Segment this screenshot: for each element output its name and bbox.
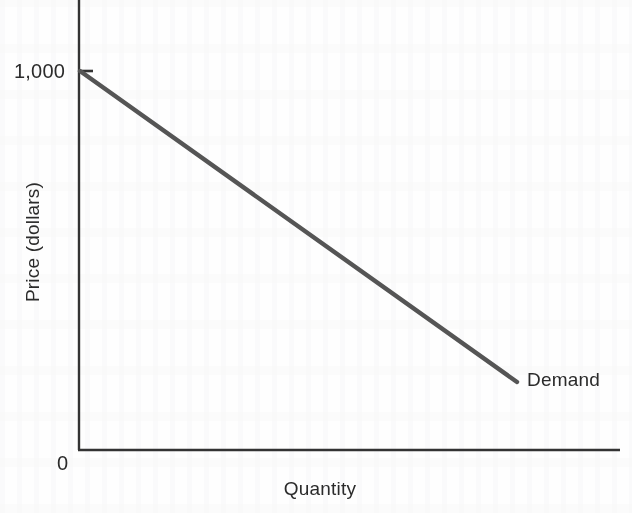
demand-curve-line	[80, 71, 517, 382]
x-axis-title: Quantity	[230, 477, 410, 501]
demand-curve-figure: 1,000 0 Price (dollars) Quantity Demand	[0, 0, 632, 513]
plot-area	[0, 0, 632, 513]
y-tick-label-1000: 1,000	[14, 58, 65, 84]
axis-origin-label: 0	[57, 450, 68, 476]
series-label-demand: Demand	[527, 368, 600, 392]
y-axis-title: Price (dollars)	[21, 147, 45, 337]
